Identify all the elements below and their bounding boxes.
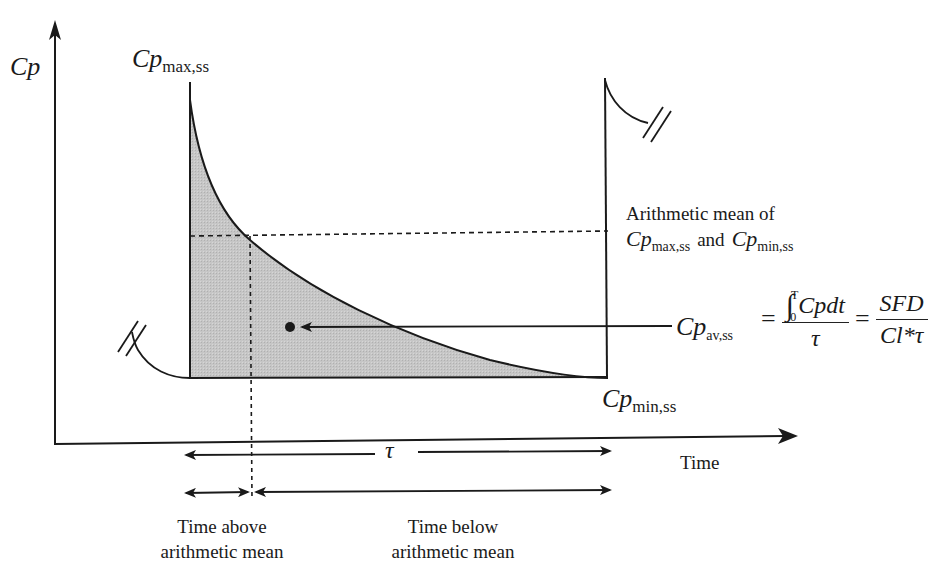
tau-arrow-left — [186, 454, 375, 455]
cp-min-main: Cp — [602, 384, 632, 413]
time-above-arrow — [186, 492, 248, 493]
cp-av-point — [285, 322, 295, 332]
integral-lower: 0 — [790, 310, 796, 324]
tau-label: τ — [385, 437, 394, 464]
time-below-line-2: arithmetic mean — [373, 539, 533, 564]
time-above-line-2: arithmetic mean — [142, 539, 302, 564]
fraction-integral: ∫T0Cpdt τ — [782, 286, 849, 352]
mean-cp-max-main: Cp — [626, 226, 652, 251]
auc-shaded-area — [190, 100, 608, 378]
cp-av-equation: = ∫T0Cpdt τ = SFD Cl*τ — [755, 286, 928, 352]
cp-av-sub: av,ss — [706, 328, 733, 343]
cp-max-label: Cpmax,ss — [132, 44, 209, 74]
time-below-arrow — [256, 490, 610, 492]
cp-min-label: Cpmin,ss — [602, 384, 676, 414]
mean-label-line-2: Cpmax,ss and Cpmin,ss — [626, 226, 794, 252]
cp-min-sub: min,ss — [632, 397, 676, 416]
sfd-denominator: Cl*τ — [880, 320, 923, 349]
cp-av-main: Cp — [676, 312, 706, 341]
previous-interval-tail — [132, 332, 190, 378]
cp-max-main: Cp — [132, 44, 162, 73]
cp-max-sub: max,ss — [162, 57, 209, 76]
time-above-label: Time above arithmetic mean — [142, 514, 302, 564]
arithmetic-mean-line — [190, 231, 608, 236]
integrand: Cpdt — [798, 292, 845, 318]
axis-break-left-icon — [118, 321, 146, 356]
time-above-line-1: Time above — [142, 514, 302, 539]
mean-cp-max-sub: max,ss — [652, 239, 691, 254]
mean-and: and — [697, 229, 724, 250]
dose-vertical-right — [605, 78, 607, 377]
integral-numerator: ∫T0Cpdt — [782, 286, 849, 323]
cp-min-baseline — [190, 377, 608, 378]
equals-2: = — [855, 304, 870, 334]
next-interval-start — [605, 80, 648, 123]
cp-av-label: Cpav,ss — [676, 312, 733, 342]
mean-cp-min-sub: min,ss — [757, 239, 793, 254]
y-axis — [49, 20, 61, 445]
integral-denominator: τ — [811, 323, 820, 352]
y-axis-label: Cp — [10, 52, 40, 82]
mean-label-line-1: Arithmetic mean of — [626, 203, 775, 225]
x-axis-label: Time — [680, 452, 719, 474]
x-axis — [55, 428, 798, 444]
axis-break-right-icon — [643, 107, 671, 142]
integral-upper: T — [791, 288, 798, 302]
time-below-line-1: Time below — [373, 514, 533, 539]
fraction-sfd: SFD Cl*τ — [876, 290, 928, 349]
time-below-label: Time below arithmetic mean — [373, 514, 533, 564]
mean-cp-min-main: Cp — [732, 226, 758, 251]
equals-1: = — [761, 304, 776, 334]
tau-arrow-right — [418, 451, 610, 452]
sfd-numerator: SFD — [876, 290, 928, 320]
cp-av-arrow — [302, 326, 672, 327]
